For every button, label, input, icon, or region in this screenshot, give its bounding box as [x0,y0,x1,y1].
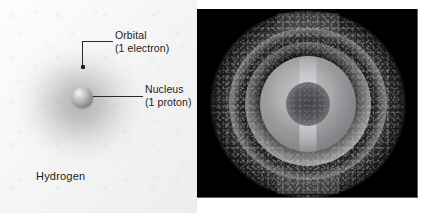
orbital-column-bottom [277,158,339,194]
orbital-lattice-overlay [219,15,396,192]
orbital-speckle-texture [212,11,404,197]
electron-dot [81,65,85,69]
nucleus-callout-subtitle: (1 proton) [145,96,192,109]
orbital-outer-halo [210,10,406,198]
orbital-shell-outer [229,28,387,180]
orbital-callout: Orbital (1 electron) [115,29,169,55]
orbital-axis-jet [299,52,316,156]
orbital-shell-middle [245,42,371,166]
orbital-leader-line-vertical [82,41,83,67]
orbital-callout-title: Orbital [115,29,169,42]
electron-density-visualization-panel [197,9,418,198]
orbital-dark-core [286,82,330,126]
figure-root: Orbital (1 electron) Nucleus (1 proton) … [0,0,433,213]
nucleus-callout: Nucleus (1 proton) [145,83,192,109]
orbital-leader-line-horizontal [82,41,113,42]
orbital-inner-body [260,56,356,152]
hydrogen-atom-diagram-panel: Orbital (1 electron) Nucleus (1 proton) … [0,0,197,213]
nucleus-sphere [72,87,93,108]
orbital-callout-subtitle: (1 electron) [115,42,169,55]
orbital-core-speckle [288,84,328,124]
orbital-column-top [277,13,339,49]
hydrogen-caption: Hydrogen [36,170,85,182]
nucleus-callout-title: Nucleus [145,83,192,96]
